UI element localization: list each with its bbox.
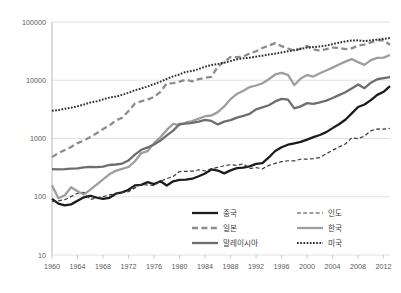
x-tick-label: 1984 <box>197 262 213 271</box>
y-tick-label: 10000 <box>26 76 46 85</box>
legend-label-인도: 인도 <box>328 208 342 218</box>
line-chart: 10000010000100010010 1960196419681972197… <box>0 0 401 293</box>
x-tick-label: 1992 <box>248 262 264 271</box>
legend-label-한국: 한국 <box>328 224 342 233</box>
x-tick-label: 1980 <box>172 262 188 271</box>
x-tick-label: 2004 <box>325 262 341 271</box>
y-tick-label: 100 <box>34 192 46 201</box>
y-tick-label: 100000 <box>22 18 46 27</box>
legend-label-미국: 미국 <box>328 239 342 248</box>
x-tick-label: 1996 <box>274 262 290 271</box>
x-tick-label: 1988 <box>223 262 239 271</box>
y-tick-label: 1000 <box>30 134 46 143</box>
x-tick-label: 1968 <box>95 262 111 271</box>
legend-label-일본: 일본 <box>223 224 237 233</box>
x-tick-label: 2000 <box>299 262 315 271</box>
x-tick-label: 2008 <box>350 262 366 271</box>
x-tick-label: 1976 <box>146 262 162 271</box>
y-tick-label: 10 <box>38 251 46 260</box>
x-tick-label: 1972 <box>121 262 137 271</box>
chart-container: 10000010000100010010 1960196419681972197… <box>0 0 401 293</box>
legend-label-말레이시아: 말레이시아 <box>223 238 258 248</box>
x-tick-label: 2012 <box>376 262 392 271</box>
legend-label-중국: 중국 <box>223 209 237 218</box>
x-tick-label: 1964 <box>70 262 86 271</box>
x-tick-label: 1960 <box>44 262 60 271</box>
